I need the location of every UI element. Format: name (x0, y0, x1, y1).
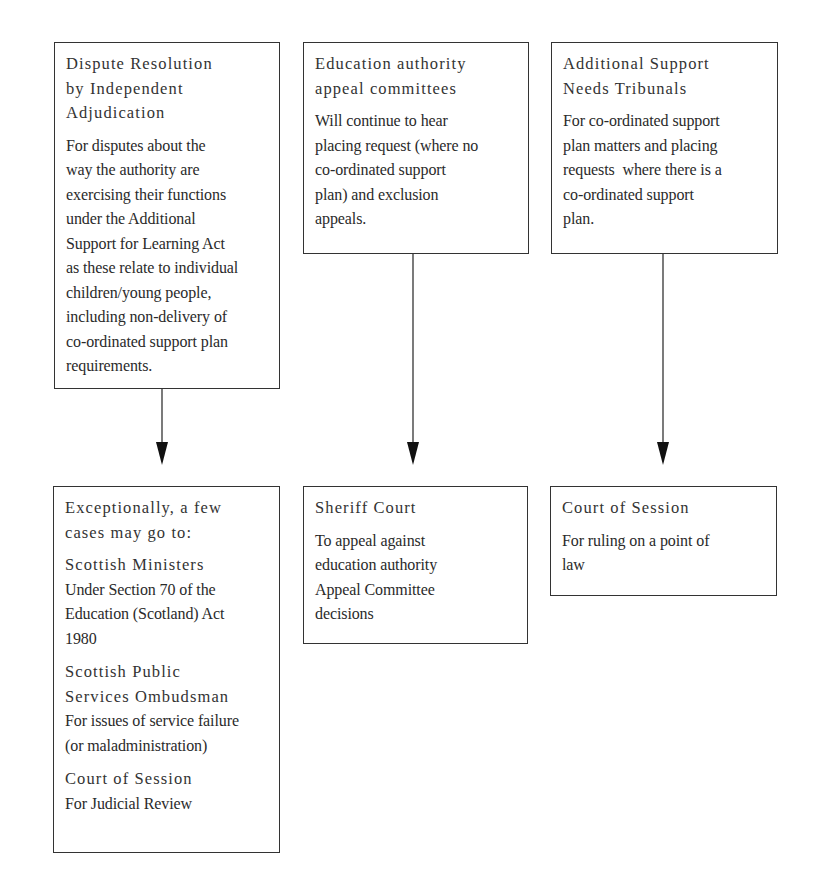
sheriff-court-box: Sheriff Court To appeal against educatio… (303, 486, 528, 644)
body-line: co-ordinated support (563, 183, 768, 208)
body-line: plan. (563, 207, 768, 232)
body-line: education authority (315, 553, 518, 578)
court-of-session-title: Court of Session (562, 496, 767, 521)
body-line: For ruling on a point of (562, 529, 767, 554)
arrow-dispute-to-exceptional (156, 389, 168, 465)
additional-support-needs-tribunals-box: Additional Support Needs Tribunals For c… (551, 42, 778, 254)
body-line: For issues of service failure (65, 709, 270, 734)
title-line: Court of Session (65, 767, 270, 792)
title-line: by Independent (66, 77, 270, 102)
body-line: plan matters and placing (563, 134, 768, 159)
additional-support-needs-tribunals-description: For co-ordinated support plan matters an… (563, 109, 768, 232)
arrowhead-icon (156, 442, 168, 465)
scottish-ministers-title: Scottish Ministers (65, 553, 270, 578)
body-line: Will continue to hear (315, 109, 519, 134)
body-line: children/young people, (66, 281, 270, 306)
body-line: For Judicial Review (65, 792, 270, 817)
body-line: decisions (315, 602, 518, 627)
body-line: Support for Learning Act (66, 232, 270, 257)
dispute-resolution-description: For disputes about the way the authority… (66, 134, 270, 379)
title-line: Additional Support (563, 52, 768, 77)
arrowhead-icon (657, 442, 669, 465)
court-of-session-judicial-review-title: Court of Session (65, 767, 270, 792)
body-line: Education (Scotland) Act (65, 602, 270, 627)
body-line: For co-ordinated support (563, 109, 768, 134)
body-line: 1980 (65, 627, 270, 652)
court-of-session-judicial-review-description: For Judicial Review (65, 792, 270, 817)
title-line: cases may go to: (65, 521, 270, 546)
body-line: under the Additional (66, 207, 270, 232)
court-of-session-judicial-review-section: Court of Session For Judicial Review (65, 767, 270, 816)
body-line: requests where there is a (563, 158, 768, 183)
education-authority-appeal-committees-box: Education authority appeal committees Wi… (303, 42, 529, 254)
body-line: as these relate to individual (66, 256, 270, 281)
title-line: Needs Tribunals (563, 77, 768, 102)
body-line: appeals. (315, 207, 519, 232)
dispute-resolution-title: Dispute Resolution by Independent Adjudi… (66, 52, 270, 126)
body-line: co-ordinated support (315, 158, 519, 183)
arrowhead-icon (407, 442, 419, 465)
education-authority-appeal-committees-title: Education authority appeal committees (315, 52, 519, 101)
scottish-ministers-description: Under Section 70 of the Education (Scotl… (65, 578, 270, 652)
sheriff-court-title: Sheriff Court (315, 496, 518, 521)
dispute-resolution-box: Dispute Resolution by Independent Adjudi… (54, 42, 280, 389)
title-line: Education authority (315, 52, 519, 77)
body-line: Under Section 70 of the (65, 578, 270, 603)
sheriff-court-description: To appeal against education authority Ap… (315, 529, 518, 627)
ombudsman-description: For issues of service failure (or maladm… (65, 709, 270, 758)
court-of-session-box: Court of Session For ruling on a point o… (550, 486, 777, 596)
body-line: including non-delivery of (66, 305, 270, 330)
body-line: To appeal against (315, 529, 518, 554)
education-authority-appeal-committees-description: Will continue to hear placing request (w… (315, 109, 519, 232)
body-line: law (562, 553, 767, 578)
title-line: Sheriff Court (315, 496, 518, 521)
additional-support-needs-tribunals-title: Additional Support Needs Tribunals (563, 52, 768, 101)
body-line: exercising their functions (66, 183, 270, 208)
body-line: requirements. (66, 354, 270, 379)
title-line: appeal committees (315, 77, 519, 102)
scottish-ministers-section: Scottish Ministers Under Section 70 of t… (65, 553, 270, 651)
exceptional-cases-intro: Exceptionally, a few cases may go to: (65, 496, 270, 545)
body-line: Appeal Committee (315, 578, 518, 603)
title-line: Exceptionally, a few (65, 496, 270, 521)
body-line: plan) and exclusion (315, 183, 519, 208)
scottish-public-services-ombudsman-section: Scottish Public Services Ombudsman For i… (65, 660, 270, 758)
arrow-tribunals-to-court-of-session (657, 254, 669, 465)
court-of-session-description: For ruling on a point of law (562, 529, 767, 578)
body-line: way the authority are (66, 158, 270, 183)
title-line: Scottish Ministers (65, 553, 270, 578)
body-line: co-ordinated support plan (66, 330, 270, 355)
title-line: Services Ombudsman (65, 685, 270, 710)
arrow-appeal-committees-to-sheriff (407, 254, 419, 465)
body-line: placing request (where no (315, 134, 519, 159)
body-line: (or maladministration) (65, 734, 270, 759)
title-line: Scottish Public (65, 660, 270, 685)
body-line: For disputes about the (66, 134, 270, 159)
title-line: Court of Session (562, 496, 767, 521)
title-line: Adjudication (66, 101, 270, 126)
title-line: Dispute Resolution (66, 52, 270, 77)
ombudsman-title: Scottish Public Services Ombudsman (65, 660, 270, 709)
exceptional-cases-box: Exceptionally, a few cases may go to: Sc… (53, 486, 280, 853)
